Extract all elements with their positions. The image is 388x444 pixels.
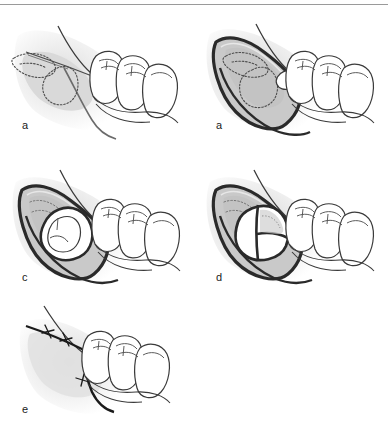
panel-label-c: c	[22, 272, 28, 283]
panel-label-d: d	[216, 272, 222, 283]
panel-label-e: e	[22, 404, 28, 415]
panel-b	[194, 8, 388, 158]
panel-e	[0, 300, 194, 444]
panel-label-a: a	[22, 120, 28, 131]
figure-root: a	[0, 0, 388, 444]
panel-d	[194, 158, 388, 308]
top-divider-rule	[0, 4, 388, 5]
sectioned-tooth	[236, 205, 289, 261]
panel-c	[0, 158, 194, 308]
panel-label-b: a	[216, 120, 222, 131]
panel-a	[0, 8, 194, 158]
exposed-crown	[41, 208, 93, 260]
